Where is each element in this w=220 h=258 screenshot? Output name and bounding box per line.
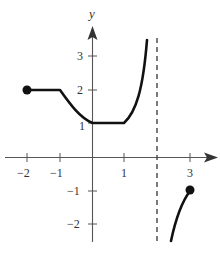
closed-endpoint-dot <box>186 186 195 195</box>
y-axis-label: y <box>87 6 95 21</box>
y-tick-label: 2 <box>77 83 83 97</box>
x-tick-label: 1 <box>121 166 127 180</box>
y-tick-label: 3 <box>77 49 83 63</box>
y-tick-label: 1 <box>79 119 85 133</box>
y-tick-label: −2 <box>67 217 80 231</box>
curve-piece-1 <box>27 40 147 123</box>
x-tick-label: −1 <box>50 166 63 180</box>
closed-endpoint-dot <box>23 86 32 95</box>
function-graph: y −2 −1 1 3 3 2 1 −1 −2 <box>0 0 220 258</box>
x-tick-label: 3 <box>187 166 193 180</box>
y-tick-label: −1 <box>67 184 80 198</box>
x-tick-label: −2 <box>17 166 30 180</box>
curve-piece-2 <box>171 191 190 241</box>
